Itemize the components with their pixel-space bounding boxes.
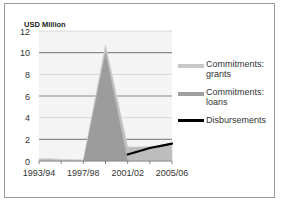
y-axis-unit-label: USD Million [24, 20, 66, 29]
legend-label: Commitments: grants [206, 59, 278, 79]
y-tick-label: 0 [25, 157, 30, 167]
x-axis: 1993/941997/982001/022005/06 [23, 161, 189, 178]
legend-swatch-disbursements [178, 119, 204, 122]
x-tick-label: 1997/98 [67, 168, 100, 178]
x-tick-label: 1993/94 [23, 168, 56, 178]
y-tick-label: 10 [20, 48, 30, 58]
x-tick-label: 2001/02 [111, 168, 144, 178]
x-tick-label: 2005/06 [156, 168, 189, 178]
y-tick-label: 8 [25, 70, 30, 80]
legend-swatch-grants [178, 64, 204, 68]
legend-item-grants: Commitments: grants [178, 59, 278, 79]
y-tick-label: 4 [25, 113, 30, 123]
legend-label: Commitments: loans [206, 87, 278, 107]
y-tick-label: 2 [25, 135, 30, 145]
legend-item-disbursements: Disbursements [178, 115, 278, 125]
legend-swatch-loans [178, 92, 204, 96]
legend: Commitments: grants Commitments: loans D… [178, 59, 278, 133]
y-axis-labels: 024681012 [20, 27, 30, 167]
legend-item-loans: Commitments: loans [178, 87, 278, 107]
y-tick-label: 12 [20, 27, 30, 37]
legend-label: Disbursements [206, 115, 266, 125]
y-tick-label: 6 [25, 92, 30, 102]
